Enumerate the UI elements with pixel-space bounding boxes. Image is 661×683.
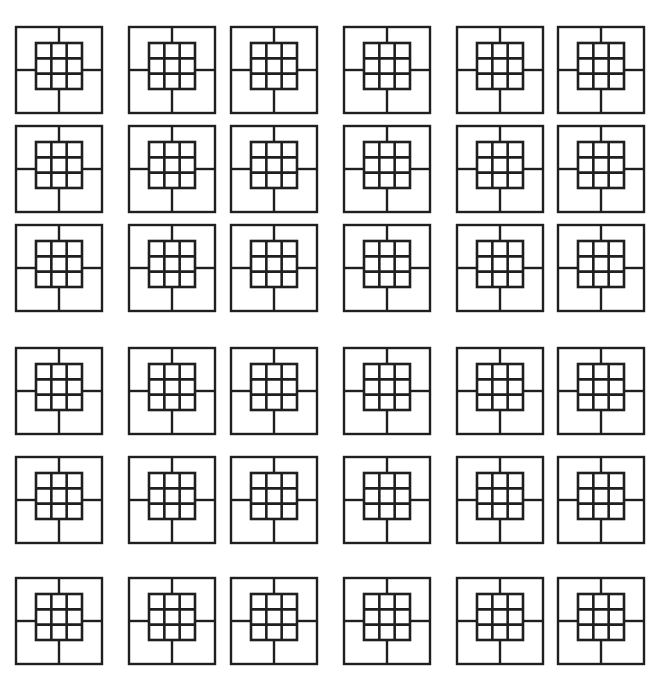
inner-nested-grid bbox=[364, 43, 410, 89]
cross-arms bbox=[129, 126, 215, 212]
cross-arms bbox=[558, 578, 644, 664]
pattern-tile bbox=[14, 455, 104, 545]
inner-nested-grid bbox=[364, 473, 410, 519]
inner-nested-grid bbox=[149, 241, 195, 287]
inner-nested-grid bbox=[578, 473, 624, 519]
cross-arms bbox=[344, 348, 430, 434]
inner-nested-grid bbox=[251, 142, 297, 188]
pattern-tile bbox=[556, 124, 646, 214]
cross-arms bbox=[231, 27, 317, 113]
pattern-tile bbox=[127, 223, 217, 313]
cross-arms bbox=[129, 225, 215, 311]
pattern-tile bbox=[229, 223, 319, 313]
cross-arms bbox=[558, 457, 644, 543]
pattern-tile bbox=[455, 124, 545, 214]
inner-nested-grid bbox=[149, 473, 195, 519]
pattern-tile bbox=[229, 455, 319, 545]
inner-nested-grid bbox=[149, 364, 195, 410]
pattern-tile bbox=[127, 576, 217, 666]
inner-nested-grid bbox=[364, 241, 410, 287]
inner-nested-grid bbox=[364, 142, 410, 188]
inner-nested-grid bbox=[477, 142, 523, 188]
pattern-tile bbox=[556, 576, 646, 666]
pattern-tile bbox=[229, 346, 319, 436]
pattern-tile bbox=[14, 124, 104, 214]
cross-arms bbox=[231, 126, 317, 212]
inner-nested-grid bbox=[36, 142, 82, 188]
cross-arms bbox=[231, 225, 317, 311]
pattern-tile bbox=[127, 25, 217, 115]
cross-arms bbox=[344, 225, 430, 311]
inner-nested-grid bbox=[251, 241, 297, 287]
pattern-tile bbox=[342, 25, 432, 115]
pattern-tile bbox=[127, 346, 217, 436]
inner-nested-grid bbox=[578, 364, 624, 410]
inner-nested-grid bbox=[477, 241, 523, 287]
pattern-tile bbox=[229, 124, 319, 214]
cross-arms bbox=[129, 578, 215, 664]
pattern-tile bbox=[556, 223, 646, 313]
cross-arms bbox=[457, 457, 543, 543]
inner-nested-grid bbox=[36, 473, 82, 519]
inner-nested-grid bbox=[364, 364, 410, 410]
inner-nested-grid bbox=[477, 594, 523, 640]
cross-arms bbox=[457, 225, 543, 311]
pattern-tile bbox=[342, 455, 432, 545]
cross-arms bbox=[457, 126, 543, 212]
cross-arms bbox=[16, 126, 102, 212]
pattern-tile bbox=[229, 576, 319, 666]
cross-arms bbox=[16, 348, 102, 434]
cross-arms bbox=[558, 126, 644, 212]
cross-arms bbox=[231, 457, 317, 543]
inner-nested-grid bbox=[36, 364, 82, 410]
pattern-tile bbox=[455, 25, 545, 115]
cross-arms bbox=[457, 578, 543, 664]
pattern-tile bbox=[14, 25, 104, 115]
inner-nested-grid bbox=[578, 594, 624, 640]
cross-arms bbox=[129, 27, 215, 113]
inner-nested-grid bbox=[251, 364, 297, 410]
cross-arms bbox=[344, 126, 430, 212]
inner-nested-grid bbox=[149, 594, 195, 640]
pattern-sheet bbox=[0, 0, 661, 683]
tile-grid bbox=[0, 0, 661, 683]
pattern-tile bbox=[342, 223, 432, 313]
pattern-tile bbox=[455, 346, 545, 436]
cross-arms bbox=[344, 27, 430, 113]
inner-nested-grid bbox=[251, 43, 297, 89]
pattern-tile bbox=[455, 455, 545, 545]
inner-nested-grid bbox=[149, 43, 195, 89]
cross-arms bbox=[231, 578, 317, 664]
pattern-tile bbox=[342, 576, 432, 666]
pattern-tile bbox=[556, 25, 646, 115]
pattern-tile bbox=[342, 124, 432, 214]
cross-arms bbox=[558, 348, 644, 434]
cross-arms bbox=[457, 348, 543, 434]
cross-arms bbox=[16, 578, 102, 664]
pattern-tile bbox=[455, 223, 545, 313]
pattern-tile bbox=[455, 576, 545, 666]
pattern-tile bbox=[556, 346, 646, 436]
inner-nested-grid bbox=[477, 43, 523, 89]
cross-arms bbox=[16, 27, 102, 113]
cross-arms bbox=[344, 457, 430, 543]
inner-nested-grid bbox=[36, 43, 82, 89]
inner-nested-grid bbox=[36, 241, 82, 287]
inner-nested-grid bbox=[149, 142, 195, 188]
inner-nested-grid bbox=[477, 473, 523, 519]
pattern-tile bbox=[14, 223, 104, 313]
pattern-tile bbox=[14, 346, 104, 436]
pattern-tile bbox=[342, 346, 432, 436]
cross-arms bbox=[129, 457, 215, 543]
cross-arms bbox=[558, 27, 644, 113]
inner-nested-grid bbox=[578, 241, 624, 287]
cross-arms bbox=[129, 348, 215, 434]
inner-nested-grid bbox=[251, 473, 297, 519]
inner-nested-grid bbox=[251, 594, 297, 640]
inner-nested-grid bbox=[578, 43, 624, 89]
cross-arms bbox=[16, 457, 102, 543]
cross-arms bbox=[16, 225, 102, 311]
inner-nested-grid bbox=[364, 594, 410, 640]
pattern-tile bbox=[556, 455, 646, 545]
inner-nested-grid bbox=[36, 594, 82, 640]
